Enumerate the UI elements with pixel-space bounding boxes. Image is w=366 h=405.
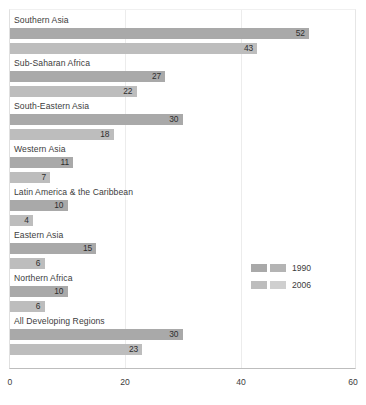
- bar-row: 6: [10, 301, 355, 312]
- bar-value-label: 4: [10, 215, 33, 226]
- chart-figure: Southern Asia5243Sub-Saharan Africa2722S…: [0, 0, 366, 405]
- bar-row: 52: [10, 28, 355, 39]
- legend-entry[interactable]: 1990: [251, 262, 346, 275]
- bar-value-label: 27: [10, 71, 165, 82]
- category-label: All Developing Regions: [14, 315, 105, 327]
- bar-row: 43: [10, 43, 355, 54]
- category-label: Eastern Asia: [14, 229, 63, 241]
- bar-row: 27: [10, 71, 355, 82]
- category-label: Latin America & the Caribbean: [14, 186, 133, 198]
- bar-row: 10: [10, 200, 355, 211]
- bar-value-label: 43: [10, 43, 257, 54]
- legend-swatch-icon: [270, 264, 286, 272]
- x-tick-label: 0: [8, 377, 13, 387]
- bar-value-label: 18: [10, 129, 114, 140]
- bar-value-label: 22: [10, 86, 137, 97]
- legend-swatch-icon: [270, 281, 286, 289]
- category-label: Sub-Saharan Africa: [14, 57, 90, 69]
- bar-row: 18: [10, 129, 355, 140]
- bar-row: 30: [10, 114, 355, 125]
- bar-row: 23: [10, 344, 355, 355]
- category-label: Western Asia: [14, 143, 66, 155]
- bar-value-label: 11: [10, 157, 73, 168]
- legend-entry[interactable]: 2006: [251, 279, 346, 292]
- legend-label: 2006: [292, 279, 311, 291]
- bar-value-label: 7: [10, 172, 50, 183]
- bar-value-label: 6: [10, 301, 45, 312]
- bar-row: 4: [10, 215, 355, 226]
- chart-legend: 19902006: [251, 262, 346, 296]
- x-tick-label: 40: [236, 377, 246, 387]
- gridline-40: [241, 10, 242, 368]
- legend-swatch-icon: [251, 281, 267, 289]
- bar-value-label: 15: [10, 243, 96, 254]
- bar-value-label: 10: [10, 286, 68, 297]
- legend-label: 1990: [292, 262, 311, 274]
- x-tick-label: 20: [120, 377, 130, 387]
- plot-area: Southern Asia5243Sub-Saharan Africa2722S…: [9, 9, 356, 369]
- bar-row: 30: [10, 329, 355, 340]
- category-label: South-Eastern Asia: [14, 100, 89, 112]
- category-label: Southern Asia: [14, 14, 69, 26]
- bar-row: 11: [10, 157, 355, 168]
- bar-value-label: 52: [10, 28, 309, 39]
- bar-row: 15: [10, 243, 355, 254]
- bar-value-label: 30: [10, 329, 183, 340]
- x-tick-label: 60: [348, 377, 358, 387]
- bar-value-label: 6: [10, 258, 45, 269]
- category-label: Northern Africa: [14, 272, 73, 284]
- bar-value-label: 23: [10, 344, 142, 355]
- x-axis: 0 20 40 60: [0, 371, 366, 391]
- bar-row: 7: [10, 172, 355, 183]
- bar-value-label: 10: [10, 200, 68, 211]
- legend-swatch-icon: [251, 264, 267, 272]
- bar-row: 22: [10, 86, 355, 97]
- bar-value-label: 30: [10, 114, 183, 125]
